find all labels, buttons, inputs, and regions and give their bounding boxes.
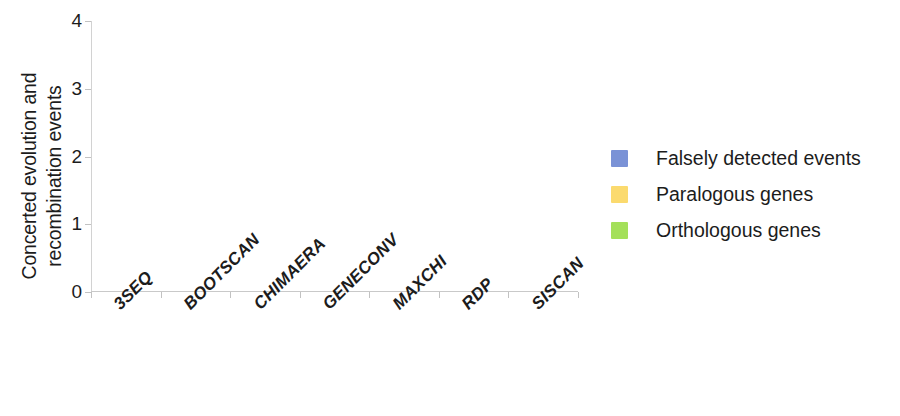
x-axis-tick [439,292,440,298]
y-axis-tick-label: 1 [71,213,82,235]
legend-label: Falsely detected events [656,149,861,169]
legend-label: Orthologous genes [656,221,821,241]
legend-item[interactable]: Paralogous genes [611,186,861,203]
x-axis-tick [91,292,92,298]
y-axis-tick-label: 4 [71,10,82,32]
y-axis-tick-label: 3 [71,78,82,100]
y-axis-tick-label: 0 [71,281,82,303]
legend-item[interactable]: Falsely detected events [611,150,861,167]
y-axis-title: Concerted evolution and recombination ev… [16,26,68,326]
x-axis-tick [300,292,301,298]
bar-group [508,21,578,292]
legend-label: Paralogous genes [656,185,813,205]
y-axis-title-line-1: Concerted evolution and [17,73,42,280]
bar-group [161,21,231,292]
chart-figure: Concerted evolution and recombination ev… [0,0,900,416]
y-axis-title-line-2: recombination events [42,85,67,266]
x-axis-tick [369,292,370,298]
x-axis-tick [230,292,231,298]
plot-area: 01234 [91,21,578,292]
legend-swatch [611,222,628,239]
x-axis-tick [161,292,162,298]
x-axis-tick [508,292,509,298]
bars-layer [91,21,578,292]
chart-legend: Falsely detected eventsParalogous genesO… [611,150,861,239]
bar-group [439,21,509,292]
bar-group [91,21,161,292]
x-axis-tick [578,292,579,298]
y-axis-tick-label: 2 [71,146,82,168]
legend-item[interactable]: Orthologous genes [611,222,861,239]
legend-swatch [611,150,628,167]
legend-swatch [611,186,628,203]
